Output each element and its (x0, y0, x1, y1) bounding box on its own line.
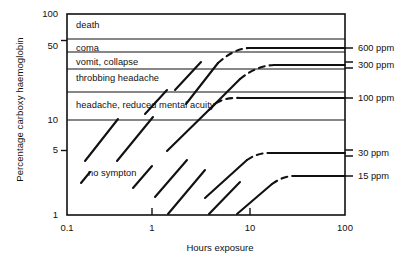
series-30ppm-knee (247, 153, 272, 160)
buildup-stroke-2 (117, 117, 153, 161)
buildup-stroke-5 (155, 160, 187, 197)
series-15ppm-knee (272, 176, 295, 184)
series-15ppm (237, 176, 345, 214)
chart-canvas (0, 0, 402, 264)
series-300ppm-knee (240, 65, 274, 79)
buildup-stroke-1 (85, 119, 118, 161)
buildup-stroke-3 (81, 172, 90, 183)
series-600ppm-knee (218, 48, 249, 63)
buildup-stroke-7 (209, 182, 240, 214)
ppm-tick-marks (345, 48, 353, 176)
axis-ticks (61, 41, 250, 216)
buildup-stroke-8 (145, 90, 167, 114)
buildup-stroke-4 (133, 166, 152, 188)
plot-border (67, 14, 345, 215)
plot-frame (67, 14, 345, 215)
buildup-strokes (81, 62, 240, 214)
series-15ppm-rise (237, 184, 272, 214)
buildup-stroke-9 (175, 62, 201, 90)
series-100ppm-rise (167, 103, 216, 151)
series-600ppm (186, 48, 345, 104)
chart-figure: Percentage carboxy haemoglobin Hours exp… (0, 0, 402, 264)
series-30ppm-rise (205, 160, 247, 198)
series-100ppm (167, 98, 345, 151)
series-300ppm (209, 65, 345, 110)
